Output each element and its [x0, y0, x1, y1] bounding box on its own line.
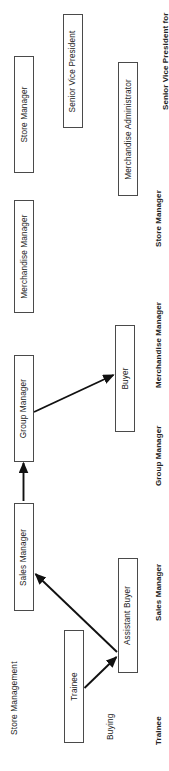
node-group-manager[interactable]: Group Manager — [14, 355, 34, 462]
node-assistant-buyer[interactable]: Assistant Buyer — [118, 558, 138, 673]
category-label-buying: Buying — [105, 713, 115, 740]
node-merchandise-administrator[interactable]: Merchandise Administrator — [118, 62, 138, 196]
node-merchandise-manager[interactable]: Merchandise Manager — [14, 200, 34, 313]
node-sales-manager[interactable]: Sales Manager — [14, 503, 34, 611]
node-label: Senior Vice President — [69, 30, 78, 112]
node-label: Sales Manager — [20, 528, 29, 585]
node-label: Merchandise Administrator — [124, 79, 133, 180]
connector-trainee-to-assistant-buyer — [85, 657, 117, 688]
category-label-store-management: Store Management — [9, 661, 19, 735]
level-label-text: Merchandise Manager — [154, 302, 163, 388]
node-label: Buyer — [121, 367, 130, 389]
category-label-text: Buying — [105, 713, 115, 740]
career-path-diagram: Store Manager Senior Vice President Merc… — [0, 0, 169, 771]
level-label-trainee: Trainee — [154, 716, 163, 745]
node-senior-vice-president[interactable]: Senior Vice President — [63, 14, 83, 128]
level-label-sales-manager: Sales Manager — [154, 564, 163, 621]
level-label-text: Group Manager — [154, 426, 163, 486]
level-label-senior-vice-president-for: Senior Vice President for — [161, 13, 169, 111]
node-label: Merchandise Manager — [20, 214, 29, 298]
connector-group-manager-to-buyer — [34, 375, 114, 412]
node-store-manager[interactable]: Store Manager — [14, 56, 34, 173]
node-label: Assistant Buyer — [124, 586, 133, 645]
level-label-group-manager: Group Manager — [154, 426, 163, 486]
node-label: Trainee — [70, 672, 79, 701]
level-label-store-manager: Store Manager — [154, 190, 163, 247]
node-label: Store Manager — [20, 86, 29, 142]
level-label-text: Store Manager — [154, 190, 163, 247]
level-label-text: Sales Manager — [154, 564, 163, 621]
level-label-text: Trainee — [154, 716, 163, 745]
node-label: Group Manager — [20, 379, 29, 438]
level-label-merchandise-manager: Merchandise Manager — [154, 302, 163, 388]
node-buyer[interactable]: Buyer — [115, 325, 135, 432]
category-label-text: Store Management — [9, 661, 19, 735]
level-label-text: Senior Vice President for — [161, 13, 169, 111]
node-trainee[interactable]: Trainee — [64, 630, 84, 743]
